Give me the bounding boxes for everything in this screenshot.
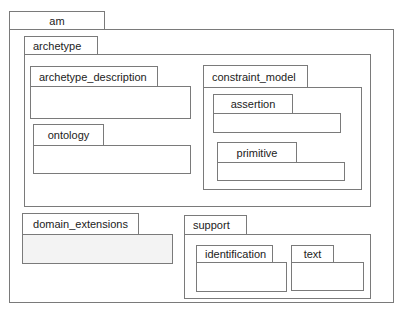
caption-cutoff	[0, 306, 404, 320]
package-label: archetype	[33, 40, 81, 52]
package-tab-domain-extensions: domain_extensions	[22, 213, 139, 235]
package-tab-support: support	[184, 215, 247, 235]
package-body-primitive	[217, 162, 345, 181]
package-body-text	[291, 262, 364, 291]
package-tab-identification: identification	[196, 245, 273, 263]
package-tab-text: text	[291, 245, 334, 263]
package-label: am	[49, 15, 64, 27]
package-tab-constraint-model: constraint_model	[203, 65, 308, 88]
package-label: assertion	[231, 98, 276, 110]
package-label: text	[304, 248, 322, 260]
package-body-ontology	[33, 145, 191, 174]
package-body-assertion	[213, 113, 341, 133]
package-body-identification	[196, 262, 287, 292]
package-tab-assertion: assertion	[213, 94, 293, 114]
package-label: ontology	[48, 129, 90, 141]
package-tab-am: am	[9, 11, 105, 30]
package-label: support	[193, 219, 230, 231]
package-label: constraint_model	[212, 71, 296, 83]
package-label: identification	[205, 248, 266, 260]
package-tab-archetype: archetype	[24, 36, 98, 55]
package-tab-primitive: primitive	[217, 142, 297, 163]
package-label: domain_extensions	[33, 218, 128, 230]
package-label: archetype_description	[39, 71, 147, 83]
package-tab-archetype-description: archetype_description	[30, 66, 158, 87]
package-body-archetype-description	[30, 86, 191, 119]
package-label: primitive	[237, 147, 278, 159]
package-tab-ontology: ontology	[33, 124, 104, 146]
package-body-domain-extensions	[22, 234, 173, 264]
